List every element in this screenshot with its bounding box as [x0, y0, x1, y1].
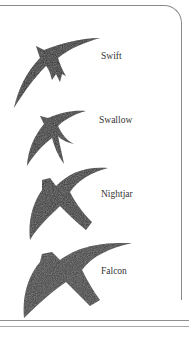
label-nightjar: Nightjar: [101, 189, 133, 199]
nightjar-silhouette: [30, 168, 109, 240]
bird-silhouettes: [0, 0, 189, 343]
label-swallow: Swallow: [99, 115, 132, 125]
swift-silhouette: [14, 38, 100, 108]
label-swift: Swift: [101, 51, 122, 61]
label-falcon: Falcon: [101, 266, 127, 276]
falcon-silhouette: [24, 243, 132, 318]
swallow-silhouette: [27, 111, 86, 166]
